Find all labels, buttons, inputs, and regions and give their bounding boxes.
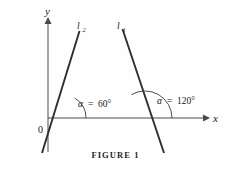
angle-60-equals: =	[88, 99, 93, 109]
line-label-l2-subscript: 2	[83, 26, 87, 33]
y-axis-label: y	[44, 5, 50, 17]
angle-label-60: α = 60°	[78, 99, 112, 109]
origin-label: 0	[38, 124, 43, 135]
angle-60-variable: α	[78, 99, 84, 109]
x-axis	[48, 115, 210, 122]
angle-120-value: 120°	[177, 96, 195, 106]
figure-container: y x 0 l 2 l 1 α = 60° α = 120° FIGURE 1	[0, 0, 231, 172]
x-axis-arrowhead	[203, 115, 210, 122]
angle-120-equals: =	[167, 96, 172, 106]
figure-caption: FIGURE 1	[0, 150, 231, 160]
line-label-l2: l 2	[77, 21, 87, 33]
line-label-l2-base: l	[77, 21, 80, 31]
line-label-l1-base: l	[117, 21, 120, 31]
y-axis-arrowhead	[45, 17, 52, 24]
line-label-l1: l 1	[117, 21, 126, 33]
x-axis-label: x	[212, 112, 218, 124]
line-label-l1-subscript: 1	[123, 26, 126, 33]
angle-60-value: 60°	[98, 99, 112, 109]
figure-diagram: y x 0 l 2 l 1 α = 60° α = 120°	[0, 0, 231, 172]
